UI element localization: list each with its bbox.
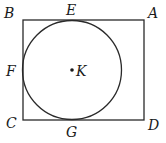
label-c: C (6, 115, 17, 131)
label-d: D (147, 117, 159, 133)
label-f: F (5, 63, 17, 79)
label-e: E (65, 2, 76, 18)
label-k: K (75, 63, 88, 79)
center-point-k (70, 68, 74, 72)
label-b: B (3, 5, 14, 21)
label-g: G (66, 124, 77, 140)
label-a: A (146, 5, 158, 21)
geometry-diagram: B A E F K C D G (0, 0, 166, 143)
